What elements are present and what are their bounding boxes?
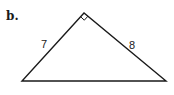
triangle-diagram [0, 0, 174, 95]
side-length-left: 7 [41, 39, 47, 50]
side-length-right: 8 [129, 40, 135, 51]
right-angle-marker-icon [81, 16, 88, 20]
problem-label: b. [6, 10, 19, 22]
triangle-figure: b. 7 8 [0, 0, 174, 95]
